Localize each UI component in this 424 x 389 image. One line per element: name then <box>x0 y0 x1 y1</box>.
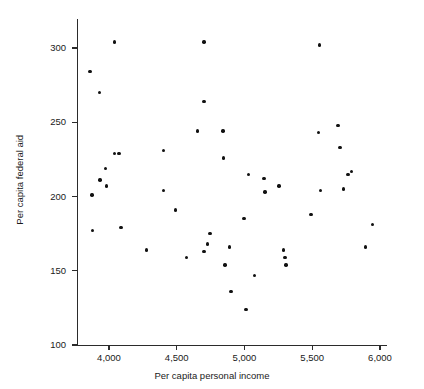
data-point <box>221 129 224 132</box>
x-tick-label: 4,500 <box>154 353 200 363</box>
data-point <box>244 308 247 311</box>
data-point <box>229 290 232 293</box>
data-point <box>284 263 287 266</box>
y-axis-title: Per capita federal aid <box>15 120 25 240</box>
data-point <box>223 263 226 266</box>
data-point <box>113 40 116 43</box>
data-point <box>228 245 231 248</box>
y-tick-label: 250 <box>30 117 66 127</box>
x-tick-mark <box>244 345 245 350</box>
data-point <box>202 40 205 43</box>
x-tick-mark <box>108 345 109 350</box>
x-axis-title: Per capita personal income <box>0 371 424 381</box>
data-point <box>162 149 165 152</box>
x-tick-label: 5,000 <box>222 353 268 363</box>
y-tick-label: 200 <box>30 192 66 202</box>
data-point <box>145 248 148 251</box>
data-point <box>346 173 349 176</box>
y-tick-label: 150 <box>30 266 66 276</box>
x-tick-label: 6,000 <box>357 353 403 363</box>
data-point <box>185 256 188 259</box>
data-point <box>117 152 120 155</box>
data-point <box>174 208 177 211</box>
plot-area <box>77 19 387 345</box>
data-point <box>263 190 266 193</box>
data-point <box>338 146 341 149</box>
data-point <box>342 187 345 190</box>
x-tick-mark <box>312 345 313 350</box>
x-tick-mark <box>379 345 380 350</box>
x-tick-label: 4,000 <box>86 353 132 363</box>
data-point <box>277 184 280 187</box>
data-point <box>202 100 205 103</box>
y-tick-label: 300 <box>30 43 66 53</box>
data-point <box>208 232 211 235</box>
y-tick-label: 100 <box>30 340 66 350</box>
data-point <box>90 193 93 196</box>
x-tick-mark <box>176 345 177 350</box>
data-point <box>309 213 312 216</box>
data-point <box>336 124 339 127</box>
data-point <box>283 256 286 259</box>
scatter-chart: 100150200250300 4,0004,5005,0005,5006,00… <box>0 0 424 389</box>
data-point <box>98 178 101 181</box>
data-point <box>222 156 225 159</box>
data-point <box>105 184 108 187</box>
data-point <box>206 242 209 245</box>
x-tick-label: 5,500 <box>289 353 335 363</box>
data-point <box>202 250 205 253</box>
